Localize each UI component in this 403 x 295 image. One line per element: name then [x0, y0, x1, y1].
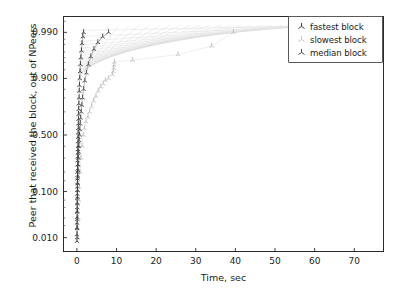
legend: fastest block slowest block median block [288, 16, 383, 63]
tri-down-marker-icon [292, 22, 310, 31]
legend-item-fastest-block: fastest block [292, 20, 378, 33]
legend-label: median block [310, 48, 367, 58]
x-tick-label: 60 [302, 256, 328, 266]
x-axis-tick-labels: 010203040506070 [0, 256, 403, 270]
legend-item-median-block: median block [292, 46, 378, 59]
tri-down-marker-icon [292, 35, 310, 44]
tri-down-marker-icon [292, 48, 310, 57]
x-tick-label: 10 [104, 256, 130, 266]
x-tick-label: 40 [222, 256, 248, 266]
x-tick-label: 50 [262, 256, 288, 266]
x-tick-label: 70 [341, 256, 367, 266]
legend-label: slowest block [310, 35, 367, 45]
x-tick-label: 30 [183, 256, 209, 266]
chart-screenshot: 0.9900.9000.5000.1000.010 01020304050607… [0, 0, 403, 295]
legend-label: fastest block [310, 22, 364, 32]
x-tick-label: 0 [64, 256, 90, 266]
legend-item-slowest-block: slowest block [292, 33, 378, 46]
x-tick-label: 20 [143, 256, 169, 266]
x-axis-title: Time, sec [63, 272, 384, 283]
y-axis-title: Peer that received the block, out of NPe… [27, 8, 38, 244]
